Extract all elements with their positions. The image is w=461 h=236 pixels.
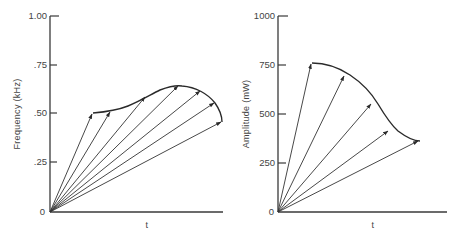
figure: 1.00 .75 .50 .25 0 Frequency (kHz) t 100…: [0, 0, 461, 236]
y-axis-label: Amplitude (mW): [241, 80, 251, 149]
tick-label: .75: [34, 59, 47, 70]
vectors: [50, 86, 221, 212]
x-axis-label: t: [372, 220, 375, 230]
tick-label: 750: [259, 59, 275, 70]
amplitude-chart: 1000 750 500 250 0 Amplitude (mW) t: [241, 10, 447, 230]
frequency-curve: [93, 86, 222, 122]
tick-label: 0: [269, 206, 274, 217]
tick-label: .25: [34, 156, 47, 167]
tick-label: .50: [34, 107, 47, 118]
amplitude-curve: [312, 63, 420, 141]
tick-label: 250: [259, 157, 275, 168]
tick-label: 1000: [254, 10, 275, 21]
x-axis-label: t: [146, 220, 149, 230]
y-axis-label: Frequency (kHz): [12, 78, 22, 149]
tick-label: 500: [259, 108, 275, 119]
tick-label: 0: [40, 206, 45, 217]
vectors: [278, 64, 418, 212]
frequency-chart: 1.00 .75 .50 .25 0 Frequency (kHz) t: [12, 10, 223, 230]
tick-label: 1.00: [29, 10, 48, 21]
